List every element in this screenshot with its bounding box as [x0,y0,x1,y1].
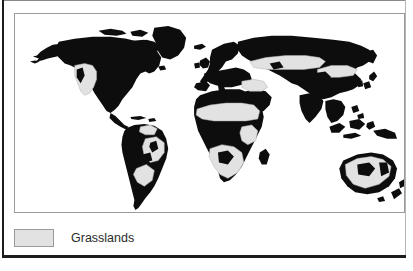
figure-border-top [2,0,406,1]
map-panel [14,13,405,213]
figure-root: Grasslands [0,0,413,271]
legend-label-grasslands: Grasslands [71,229,134,247]
land-korea [357,80,363,87]
world-map-graphic [15,14,404,212]
figure-border-left [2,0,4,258]
figure-border-right [405,0,406,256]
legend: Grasslands [14,229,134,247]
grassland-anatolia [242,79,268,91]
legend-swatch-grasslands [14,229,54,247]
figure-border-bottom [2,255,406,258]
land-ireland [194,63,200,69]
